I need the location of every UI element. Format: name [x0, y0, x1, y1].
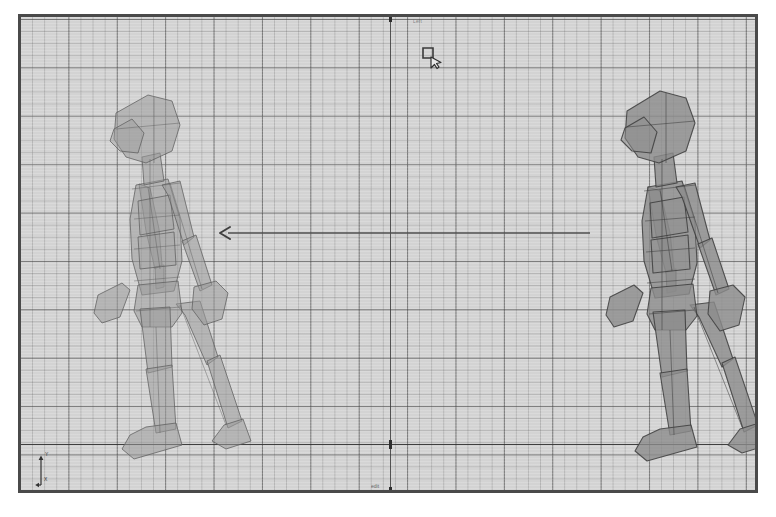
lasso-select-cursor-icon [421, 46, 443, 70]
axis-tick-top [389, 17, 392, 22]
axis-orientation-gizmo[interactable]: Y X [33, 451, 67, 490]
viewport-frame[interactable]: Left edit Y X [18, 14, 758, 493]
walk-cycle-figure-start[interactable] [76, 89, 276, 467]
gizmo-axis-y-label: Y [45, 452, 48, 457]
walk-cycle-figure-end[interactable] [596, 83, 755, 467]
viewport-view-label: Left [413, 18, 422, 24]
motion-direction-arrow [218, 224, 590, 242]
axis-tick-bottom [389, 487, 392, 490]
gizmo-axis-x-label: X [44, 477, 47, 482]
axis-gizmo-graphic [33, 451, 67, 490]
application-window: Left edit Y X [0, 0, 776, 517]
viewport-status-label: edit [371, 483, 379, 489]
axis-tick-origin [389, 440, 392, 449]
axis-line-vertical [390, 17, 391, 490]
viewport-canvas[interactable]: Left edit Y X [21, 17, 755, 490]
